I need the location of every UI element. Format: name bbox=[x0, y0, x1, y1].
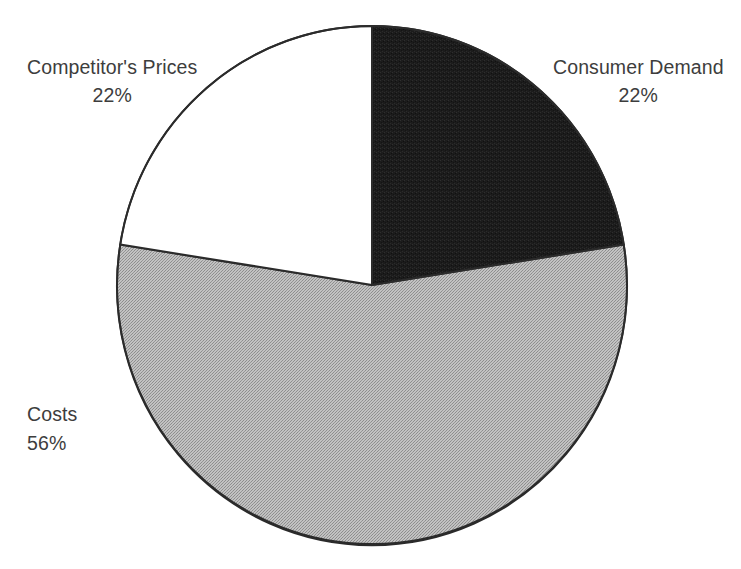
pie-slice-costs bbox=[117, 245, 627, 546]
pie-label-consumer-demand-percent: 22% bbox=[553, 83, 724, 108]
pie-label-costs: Costs 56% bbox=[27, 402, 77, 457]
pie-label-costs-name: Costs bbox=[27, 402, 77, 427]
pie-label-competitors-prices-percent: 22% bbox=[27, 83, 197, 108]
pie-label-consumer-demand: Consumer Demand 22% bbox=[553, 55, 724, 109]
pie-label-costs-percent: 56% bbox=[27, 431, 77, 456]
pie-label-consumer-demand-name: Consumer Demand bbox=[553, 55, 724, 80]
pie-label-competitors-prices-name: Competitor's Prices bbox=[27, 55, 197, 80]
pie-label-competitors-prices: Competitor's Prices 22% bbox=[27, 55, 197, 109]
pie-chart-figure: Competitor's Prices 22% Consumer Demand … bbox=[0, 0, 741, 569]
